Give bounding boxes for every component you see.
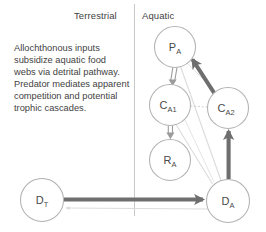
edge-CA2-PA: [193, 60, 215, 94]
node-PA[interactable]: PA: [155, 27, 196, 68]
node-DA[interactable]: DA: [207, 180, 250, 223]
food-web-graph: PA CA1 CA2 RA DT DA: [0, 0, 266, 232]
node-DT[interactable]: DT: [21, 179, 64, 222]
node-RA[interactable]: RA: [150, 140, 191, 181]
edge-CA1-CA2: [191, 106, 208, 107]
node-CA1[interactable]: CA1: [150, 85, 191, 126]
figure-canvas: Terrestrial Aquatic Allochthonous inputs…: [0, 0, 266, 232]
node-CA2[interactable]: CA2: [208, 88, 249, 129]
edge-CA1-RA: [166, 126, 174, 140]
edge-PA-CA1: [169, 68, 177, 87]
edge-DA-DT: [66, 208, 208, 209]
edge-CA1-DA-wisp: [185, 120, 214, 182]
